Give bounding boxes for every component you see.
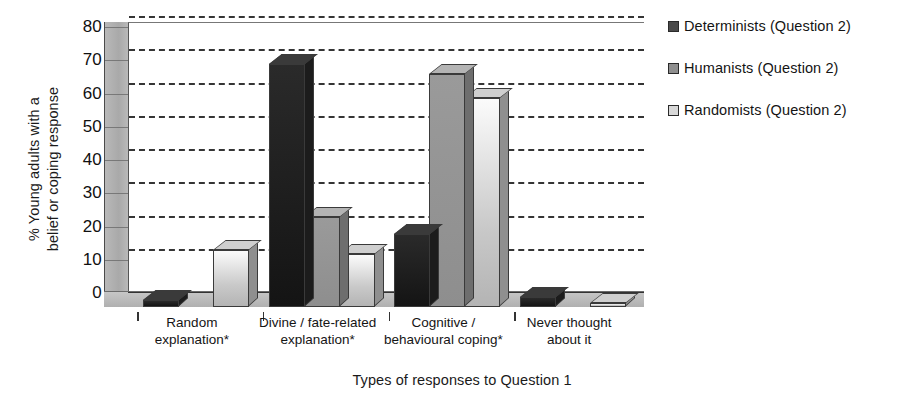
gridline-70	[129, 49, 644, 51]
chart-figure: % Young adults with a belief or coping r…	[0, 0, 924, 400]
legend-label-2: Randomists (Question 2)	[684, 102, 847, 118]
gridline-80	[129, 16, 644, 18]
gridline-40	[129, 149, 644, 151]
bar-0-2	[394, 234, 430, 307]
side-panel-rib-70	[105, 60, 130, 61]
y-tick-label-40: 40	[83, 151, 102, 168]
bar-0-3	[520, 297, 556, 307]
x-category-label-1-line-0: Divine / fate-related	[255, 314, 381, 331]
chart-legend: Determinists (Question 2)Humanists (Ques…	[668, 18, 916, 144]
legend-item-1[interactable]: Humanists (Question 2)	[668, 60, 916, 76]
side-panel-rib-20	[105, 227, 130, 228]
bar-side	[499, 89, 509, 307]
side-panel-rib-80	[105, 27, 130, 28]
bar-side	[464, 65, 474, 307]
x-axis-title: Types of responses to Question 1	[0, 372, 924, 388]
side-panel-rib-60	[105, 94, 130, 95]
legend-swatch-icon-0	[668, 21, 679, 32]
gridline-50	[129, 116, 644, 118]
bar-face	[143, 300, 179, 307]
bar-side	[374, 245, 384, 307]
legend-label-1: Humanists (Question 2)	[684, 60, 839, 76]
plot-back-wall	[128, 22, 644, 293]
legend-item-2[interactable]: Randomists (Question 2)	[668, 102, 916, 118]
bar-face	[520, 297, 556, 307]
bar-side	[248, 241, 258, 307]
y-axis-title: % Young adults with a belief or coping r…	[25, 29, 63, 309]
y-tick-label-80: 80	[83, 18, 102, 35]
gridline-20	[129, 216, 644, 218]
x-axis-category-labels: Randomexplanation*Divine / fate-relatede…	[104, 314, 644, 360]
y-tick-label-10: 10	[83, 250, 102, 267]
bar-face	[213, 250, 249, 307]
gridline-60	[129, 83, 644, 85]
x-category-label-2-line-1: behavioural coping*	[381, 331, 507, 348]
bar-face	[269, 64, 305, 307]
x-category-label-3-line-1: about it	[506, 331, 632, 348]
y-axis-title-line-1: % Young adults with a	[25, 29, 44, 309]
x-category-label-1: Divine / fate-relatedexplanation*	[255, 314, 381, 348]
bar-2-3	[590, 303, 626, 307]
legend-item-0[interactable]: Determinists (Question 2)	[668, 18, 916, 34]
x-category-label-0-line-1: explanation*	[129, 331, 255, 348]
bar-side	[429, 225, 439, 307]
bar-face	[590, 303, 626, 307]
x-category-label-2-line-0: Cognitive /	[381, 314, 507, 331]
y-tick-label-60: 60	[83, 84, 102, 101]
x-category-label-0-line-0: Random	[129, 314, 255, 331]
side-panel-rib-30	[105, 193, 130, 194]
y-axis-tick-labels: 01020304050607080	[60, 22, 102, 307]
bar-face	[394, 234, 430, 307]
x-category-label-3: Never thoughtabout it	[506, 314, 632, 348]
bar-side	[339, 208, 349, 307]
y-tick-label-20: 20	[83, 217, 102, 234]
gridline-10	[129, 249, 644, 251]
y-tick-label-0: 0	[92, 284, 102, 301]
bar-0-1	[269, 64, 305, 307]
legend-swatch-icon-2	[668, 105, 679, 116]
side-panel-rib-10	[105, 260, 130, 261]
legend-label-0: Determinists (Question 2)	[684, 18, 851, 34]
x-category-label-1-line-1: explanation*	[255, 331, 381, 348]
side-panel-rib-40	[105, 160, 130, 161]
x-category-label-0: Randomexplanation*	[129, 314, 255, 348]
y-tick-label-70: 70	[83, 51, 102, 68]
x-axis-line	[128, 292, 644, 294]
y-tick-label-30: 30	[83, 184, 102, 201]
axis-side-panel	[104, 22, 130, 293]
x-category-label-2: Cognitive /behavioural coping*	[381, 314, 507, 348]
gridline-30	[129, 182, 644, 184]
y-tick-label-50: 50	[83, 117, 102, 134]
bar-side	[304, 55, 314, 307]
legend-swatch-icon-1	[668, 63, 679, 74]
bar-2-0	[213, 250, 249, 307]
bar-0-0	[143, 300, 179, 307]
plot-area	[104, 22, 644, 307]
x-category-label-3-line-0: Never thought	[506, 314, 632, 331]
side-panel-rib-50	[105, 127, 130, 128]
